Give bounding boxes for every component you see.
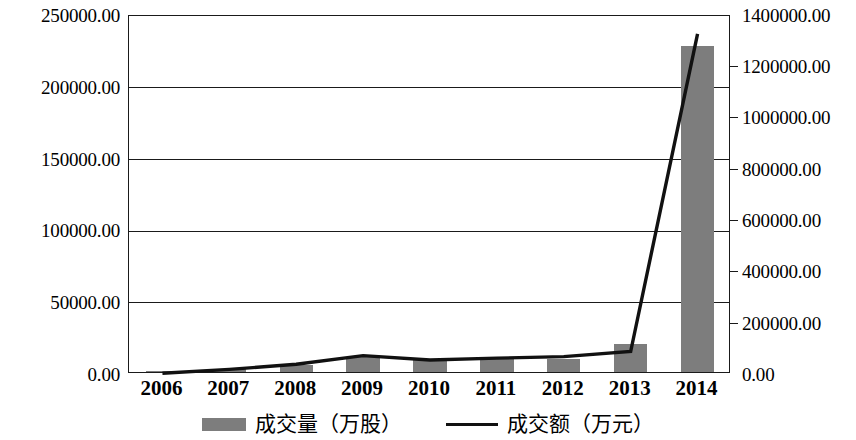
right-axis-tick-mark [730, 66, 738, 67]
gridline [129, 159, 729, 160]
x-axis-label-2006: 2006 [128, 376, 195, 400]
x-axis-label-2011: 2011 [462, 376, 529, 400]
left-axis-tick-label: 250000.00 [0, 6, 120, 25]
right-axis-labels: 1400000.00 1200000.00 1000000.00 800000.… [742, 0, 856, 440]
bar-2008 [280, 365, 313, 372]
right-axis-tick-label: 200000.00 [742, 314, 821, 333]
legend-label-volume: 成交量（万股） [255, 413, 402, 436]
left-axis-tick-label: 100000.00 [0, 221, 120, 240]
x-axis-label-2008: 2008 [262, 376, 329, 400]
bar-2006 [146, 371, 179, 372]
line-series [129, 16, 731, 374]
bar-2007 [213, 369, 246, 372]
legend-item-turnover: 成交额（万元） [446, 413, 654, 436]
right-axis-tick-label: 400000.00 [742, 262, 821, 281]
left-axis-tick-label: 0.00 [0, 365, 120, 384]
right-axis-tick-label: 800000.00 [742, 160, 821, 179]
gridline [129, 302, 729, 303]
right-axis-tick-label: 600000.00 [742, 211, 821, 230]
x-axis-label-2013: 2013 [596, 376, 663, 400]
legend-label-turnover: 成交额（万元） [507, 413, 654, 436]
bar-2012 [547, 359, 580, 372]
right-axis-tick-label: 1200000.00 [742, 57, 830, 76]
right-axis-tick-mark [730, 117, 738, 118]
right-axis-tick-mark [730, 323, 738, 324]
left-axis-tick-label: 50000.00 [0, 293, 120, 312]
right-axis-tick-label: 1400000.00 [742, 6, 830, 25]
x-axis-label-2009: 2009 [329, 376, 396, 400]
gridline [129, 231, 729, 232]
right-axis-tick-label: 0.00 [742, 365, 774, 384]
left-axis-tick-label: 150000.00 [0, 150, 120, 169]
left-axis-labels: 250000.00 200000.00 150000.00 100000.00 … [0, 0, 120, 440]
right-axis-tick-mark [730, 169, 738, 170]
x-axis-label-2010: 2010 [396, 376, 463, 400]
gridline [129, 87, 729, 88]
x-axis-label-2012: 2012 [529, 376, 596, 400]
plot-area [128, 15, 730, 373]
x-axis-label-2007: 2007 [195, 376, 262, 400]
legend-bar-swatch-icon [202, 418, 246, 431]
left-axis-tick-label: 200000.00 [0, 78, 120, 97]
bar-2010 [413, 360, 446, 372]
bar-2009 [346, 357, 379, 372]
x-axis-label-2014: 2014 [663, 376, 730, 400]
right-axis-tick-mark [730, 271, 738, 272]
bar-2013 [614, 344, 647, 372]
legend-line-swatch-icon [446, 423, 498, 426]
line-series-path [162, 34, 697, 373]
chart-legend: 成交量（万股） 成交额（万元） [0, 408, 856, 440]
bar-2014 [681, 46, 714, 372]
right-axis-tick-mark [730, 220, 738, 221]
legend-item-volume: 成交量（万股） [202, 413, 402, 436]
x-axis-labels: 200620072008200920102011201220132014 [128, 376, 730, 406]
bar-2011 [480, 359, 513, 372]
right-axis-tick-label: 1000000.00 [742, 108, 830, 127]
combo-chart: 250000.00 200000.00 150000.00 100000.00 … [0, 0, 856, 440]
